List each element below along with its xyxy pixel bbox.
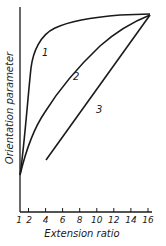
x-tick-label: 12 xyxy=(108,215,120,225)
x-tick-label: 8 xyxy=(77,215,83,225)
x-tick-label: 2 xyxy=(26,215,32,225)
y-axis-title: Orientation parameter xyxy=(4,51,15,164)
curve-label-1: 1 xyxy=(42,47,48,58)
chart: 1 2 4 6 8 10 12 14 16 Extension ratio Or… xyxy=(0,0,166,246)
curve-label-3: 3 xyxy=(96,104,102,115)
x-tick-label: 6 xyxy=(60,215,66,225)
x-tick-label: 14 xyxy=(125,215,137,225)
x-tick-label: 4 xyxy=(43,215,49,225)
curve-label-2: 2 xyxy=(73,71,79,82)
x-tick-labels: 1 2 4 6 8 10 12 14 16 xyxy=(16,215,154,225)
x-axis-title: Extension ratio xyxy=(44,228,119,239)
x-tick-label: 1 xyxy=(16,215,22,225)
x-tick-label: 16 xyxy=(142,215,154,225)
x-tick-label: 10 xyxy=(91,215,103,225)
curve-1 xyxy=(20,14,150,175)
curve-2 xyxy=(20,15,150,175)
